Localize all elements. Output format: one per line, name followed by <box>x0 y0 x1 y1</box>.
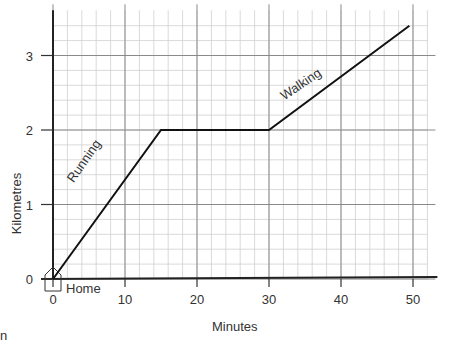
svg-text:40: 40 <box>334 292 348 307</box>
svg-text:30: 30 <box>262 292 276 307</box>
home-label: Home <box>66 281 101 296</box>
y-axis-label: Kilometres <box>9 164 24 244</box>
x-axis-label: Minutes <box>212 319 258 334</box>
svg-text:0: 0 <box>49 292 56 307</box>
journey-line <box>53 26 409 279</box>
svg-text:10: 10 <box>118 292 132 307</box>
svg-text:0: 0 <box>26 272 33 287</box>
svg-text:50: 50 <box>406 292 420 307</box>
stray-mark: n <box>0 328 7 343</box>
svg-text:1: 1 <box>26 198 33 213</box>
svg-text:3: 3 <box>26 49 33 64</box>
svg-text:20: 20 <box>190 292 204 307</box>
svg-text:2: 2 <box>26 123 33 138</box>
